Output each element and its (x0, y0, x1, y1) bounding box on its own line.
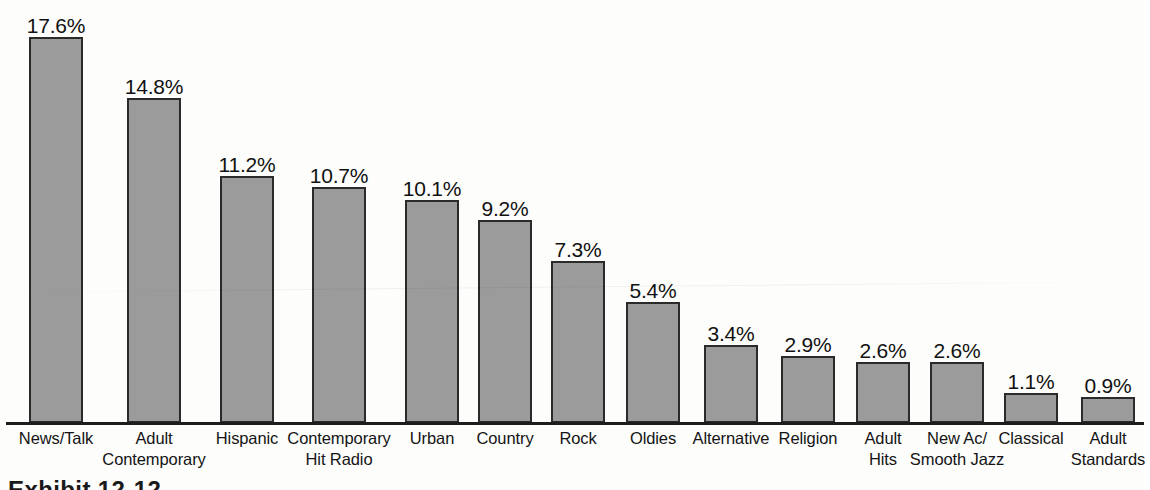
category-label-line1: Adult (135, 429, 172, 447)
category-label-line2: Hit Radio (287, 449, 391, 470)
category-label-line1: Religion (779, 429, 838, 447)
bar-rect[interactable] (551, 261, 605, 423)
bar-rect[interactable] (1004, 393, 1058, 423)
bar-rect[interactable] (312, 187, 366, 423)
category-label: Adult Standards (1056, 428, 1150, 470)
bar-value-label: 9.2% (466, 197, 544, 221)
bar-rect[interactable] (856, 362, 910, 423)
bar-value-label: 1.1% (992, 370, 1070, 394)
bar-rect[interactable] (704, 345, 758, 423)
category-label-line1: Classical (998, 429, 1063, 447)
category-label-line1: Rock (559, 429, 596, 447)
category-label-line2: Smooth Jazz (905, 449, 1009, 470)
bar-value-label: 3.4% (692, 322, 770, 346)
bar-rect[interactable] (930, 362, 984, 423)
category-label: News/Talk (4, 428, 108, 449)
exhibit-caption: Exhibit 12-12 (8, 476, 161, 490)
category-labels: News/Talk Adult Contemporary Hispanic Co… (0, 428, 1144, 484)
bar-value-label: 17.6% (17, 14, 95, 38)
bar-rect[interactable] (127, 98, 181, 423)
category-label: Contemporary Hit Radio (287, 428, 391, 470)
category-label-line1: Country (476, 429, 533, 447)
category-label: Hispanic (195, 428, 299, 449)
bar-value-label: 14.8% (115, 75, 193, 99)
category-label-line1: News/Talk (19, 429, 93, 447)
bar-value-label: 2.6% (844, 339, 922, 363)
category-label-line2: Contemporary (102, 449, 206, 470)
category-label-line1: Hispanic (216, 429, 278, 447)
bar-rect[interactable] (626, 302, 680, 423)
category-label-line1: Contemporary (287, 429, 390, 447)
category-label: Adult Contemporary (102, 428, 206, 470)
bar-value-label: 2.9% (769, 333, 847, 357)
category-label-line1: Urban (410, 429, 454, 447)
bar-value-label: 2.6% (918, 339, 996, 363)
bar-value-label: 5.4% (614, 279, 692, 303)
category-label-line1: Oldies (630, 429, 676, 447)
category-label-line1: Adult (864, 429, 901, 447)
bar-rect[interactable] (29, 37, 83, 423)
x-axis-line (6, 422, 1144, 425)
bar-rect[interactable] (781, 356, 835, 423)
category-label-line1: New Ac/ (927, 429, 987, 447)
bars-layer: 17.6% 14.8% 11.2% 10.7% 10.1% 9.2% (0, 0, 1144, 423)
bar-value-label: 10.7% (300, 164, 378, 188)
bar-rect[interactable] (405, 200, 459, 423)
bar-value-label: 7.3% (539, 238, 617, 262)
bar-rect[interactable] (1081, 397, 1135, 423)
bar-rect[interactable] (478, 220, 532, 423)
category-label-line2: Standards (1056, 449, 1150, 470)
bar-value-label: 11.2% (208, 153, 286, 177)
bar-value-label: 10.1% (393, 177, 471, 201)
category-label-line1: Adult (1089, 429, 1126, 447)
bar-rect[interactable] (220, 176, 274, 423)
plot-area: 17.6% 14.8% 11.2% 10.7% 10.1% 9.2% (0, 0, 1144, 424)
bar-value-label: 0.9% (1069, 374, 1147, 398)
